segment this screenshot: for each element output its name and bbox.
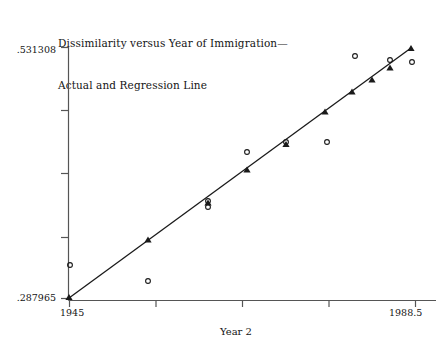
- actual-marker: [410, 60, 415, 65]
- actual-marker: [353, 54, 358, 59]
- actual-marker: [388, 58, 393, 63]
- regression-marker: [65, 294, 72, 300]
- actual-marker: [245, 150, 250, 155]
- actual-markers: [68, 54, 415, 284]
- regression-marker: [144, 237, 151, 243]
- y-axis-ticks: [61, 48, 69, 299]
- actual-marker: [325, 140, 330, 145]
- regression-marker: [407, 45, 414, 51]
- plot-area: [0, 0, 443, 350]
- x-axis-ticks: [70, 301, 416, 308]
- regression-marker: [368, 77, 375, 83]
- actual-marker: [146, 279, 151, 284]
- chart-figure: Dissimilarity versus Year of Immigration…: [0, 0, 443, 350]
- regression-line: [69, 48, 411, 298]
